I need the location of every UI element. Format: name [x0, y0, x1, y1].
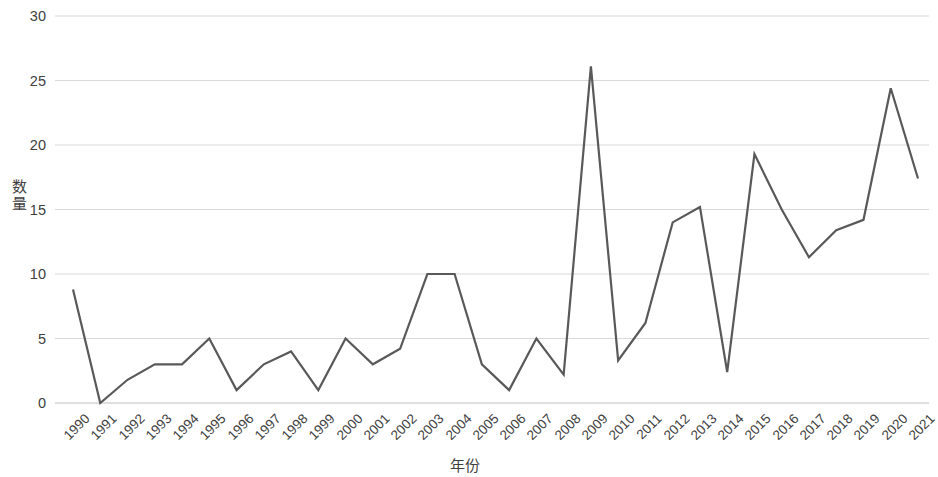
x-axis-title: 年份 [0, 454, 929, 475]
